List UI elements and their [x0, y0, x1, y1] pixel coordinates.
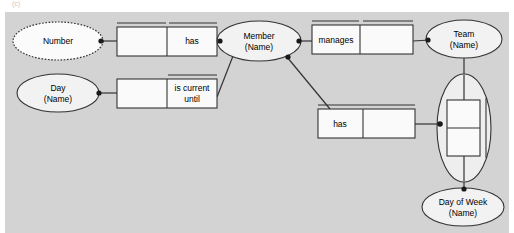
entity-team[interactable]: Team (Name): [426, 20, 502, 58]
connection-dot-manages-team: [425, 37, 430, 42]
relationship-is-current-until[interactable]: is current until: [117, 75, 217, 108]
relationship-has-number[interactable]: has: [117, 23, 217, 56]
relationship-has-day-of-week-label: has: [333, 119, 347, 129]
relationship-has-number-label: has: [185, 36, 199, 46]
entity-number[interactable]: Number: [13, 22, 103, 60]
connection-dot-has2-nested: [437, 121, 443, 127]
relationship-manages[interactable]: manages: [312, 21, 413, 54]
relationship-is-current-until-label-line1: is current: [175, 83, 211, 93]
connector-member-to-has2: [287, 57, 330, 109]
connection-dot-day-iscurrent: [96, 90, 101, 95]
connection-dot-nested-dayofweek: [461, 186, 466, 191]
entity-team-label-line2: (Name): [450, 40, 479, 50]
entity-number-label: Number: [43, 36, 73, 46]
entity-day-ellipse: [17, 74, 99, 112]
entity-team-label-line1: Team: [454, 29, 475, 39]
relationship-is-current-until-label-line2: until: [184, 94, 200, 104]
connection-dot-member-manages: [296, 38, 301, 43]
entity-member-label-line2: (Name): [245, 42, 274, 52]
entity-team-ellipse: [426, 20, 502, 58]
connection-dot-has-member: [217, 38, 222, 43]
connection-dot-member-has2: [285, 54, 290, 59]
entity-member-label-line1: Member: [243, 31, 274, 41]
entity-day-label-line2: (Name): [44, 94, 73, 104]
connection-dot-number-has: [98, 38, 103, 43]
entity-day-label-line1: Day: [50, 83, 66, 93]
entity-day-of-week-label-line1: Day of Week: [439, 197, 488, 207]
nested-relationship-team-dayofweek[interactable]: [437, 74, 491, 182]
connector-iscurrent-to-member: [217, 56, 233, 97]
entity-day-of-week-ellipse: [422, 188, 504, 226]
er-diagram-svg: has is current until manages has: [0, 0, 514, 233]
er-diagram-stage: (c): [0, 0, 514, 233]
relationship-manages-label: manages: [319, 35, 354, 45]
entity-day-of-week[interactable]: Day of Week (Name): [422, 188, 504, 226]
entity-day-of-week-label-line2: (Name): [449, 208, 478, 218]
entity-day[interactable]: Day (Name): [17, 74, 99, 112]
relationship-has-day-of-week[interactable]: has: [318, 105, 415, 138]
